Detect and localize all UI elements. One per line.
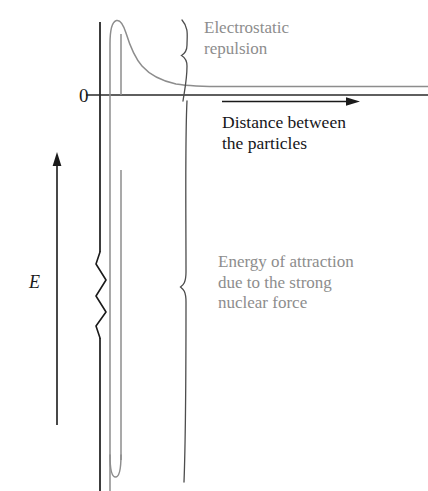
energy-of-attraction-label: Energy of attraction due to the strong n… [218, 252, 354, 314]
zero-energy-label: 0 [79, 84, 89, 107]
distance-axis-label: Distance between the particles [222, 112, 346, 155]
figure-graphics [0, 0, 428, 491]
energy-axis-label: E [29, 272, 40, 294]
nuclear-potential-energy-figure: 0 E Electrostatic repulsion Distance bet… [0, 0, 428, 491]
distance-axis-arrow [222, 97, 360, 105]
energy-of-attraction-brace [181, 101, 188, 482]
energy-axis-arrow [53, 152, 62, 425]
electrostatic-repulsion-label: Electrostatic repulsion [204, 18, 289, 59]
axis-break-zigzag [96, 252, 106, 338]
electrostatic-repulsion-brace [182, 20, 188, 101]
potential-well-bottom [110, 455, 121, 477]
